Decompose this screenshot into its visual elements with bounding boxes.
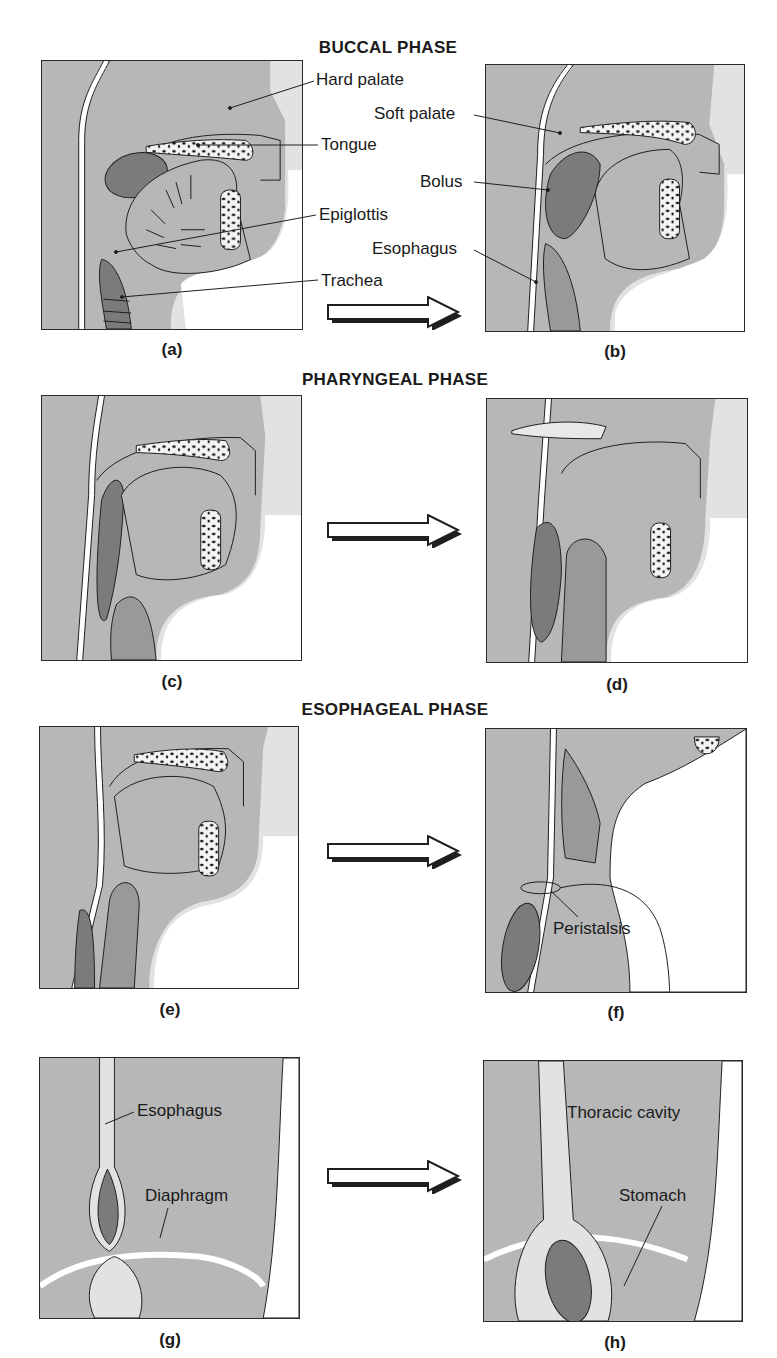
panel-e-esophageal-start [39,726,299,989]
panel-f-esophageal-end [485,728,747,993]
label-thoracic-cavity: Thoracic cavity [567,1103,680,1123]
caption-f: (f) [596,1003,636,1023]
label-trachea: Trachea [321,271,383,291]
neck-sagittal-illustration [486,729,746,992]
label-peristalsis: Peristalsis [553,919,630,939]
label-soft-palate: Soft palate [374,104,455,124]
caption-g: (g) [150,1330,190,1350]
label-diaphragm: Diaphragm [145,1186,228,1206]
panel-b-buccal-end [485,64,745,332]
head-sagittal-illustration [486,65,744,331]
head-sagittal-illustration [40,727,298,988]
phase-title-esophageal: ESOPHAGEAL PHASE [245,700,545,720]
label-esophagus-g: Esophagus [137,1101,222,1121]
caption-d: (d) [597,675,637,695]
caption-e: (e) [150,1000,190,1020]
label-epiglottis: Epiglottis [319,205,388,225]
panel-h-stomach [483,1060,743,1322]
head-sagittal-illustration [42,61,302,329]
right-arrow-icon [326,514,466,548]
right-arrow-icon [326,835,466,869]
thoracic-illustration [484,1061,742,1321]
right-arrow-icon [326,1160,466,1194]
right-arrow-icon [326,296,466,330]
caption-h: (h) [595,1333,635,1353]
label-hard-palate: Hard palate [316,70,404,90]
panel-d-pharyngeal-end [486,398,748,663]
caption-c: (c) [152,672,192,692]
head-sagittal-illustration [487,399,747,662]
label-bolus: Bolus [420,172,463,192]
phase-title-pharyngeal: PHARYNGEAL PHASE [245,370,545,390]
caption-a: (a) [152,340,192,360]
head-sagittal-illustration [42,396,301,660]
label-esophagus-b: Esophagus [372,239,457,259]
panel-a-buccal-start [41,60,303,330]
panel-c-pharyngeal-start [41,395,302,661]
phase-title-buccal: BUCCAL PHASE [238,38,538,58]
caption-b: (b) [595,342,635,362]
label-stomach: Stomach [619,1186,686,1206]
label-tongue: Tongue [321,135,377,155]
